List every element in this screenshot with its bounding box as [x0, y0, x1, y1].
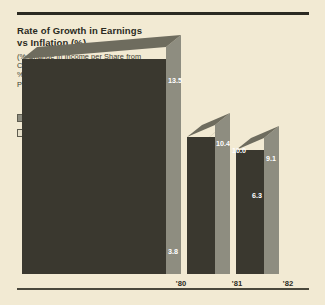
- value-label-inflation-80: 13.5: [168, 76, 182, 85]
- value-label-inflation-82: 9.1: [266, 154, 276, 163]
- value-label-earnings-81: 10.0: [232, 146, 246, 155]
- bar-inflation-81: [187, 113, 230, 274]
- bar-inflation-80-front: [22, 59, 166, 274]
- value-label-earnings-80: 3.8: [168, 247, 178, 256]
- chart-page: Rate of Growth in Earnings vs Inflation …: [0, 0, 325, 305]
- chart-plot-area: 13.5 3.8 10.4 10.0 9.1 6.3 '80 '81 '82: [0, 12, 325, 290]
- bar-inflation-81-front: [187, 137, 215, 274]
- axis-tick-80: '80: [176, 279, 186, 288]
- bar-inflation-82-side: [264, 126, 279, 274]
- bar-inflation-82-front: [236, 150, 264, 274]
- value-label-earnings-82: 6.3: [252, 191, 262, 200]
- bar-inflation-80-top: [22, 35, 181, 59]
- bar-inflation-81-side: [215, 113, 230, 274]
- axis-tick-81: '81: [232, 279, 243, 288]
- bar-chart-svg: 13.5 3.8 10.4 10.0 9.1 6.3 '80 '81 '82: [0, 12, 325, 290]
- bar-inflation-80-side: [166, 35, 181, 274]
- value-label-inflation-81: 10.4: [216, 139, 230, 148]
- bar-inflation-80: [22, 35, 181, 274]
- axis-tick-82: '82: [283, 279, 293, 288]
